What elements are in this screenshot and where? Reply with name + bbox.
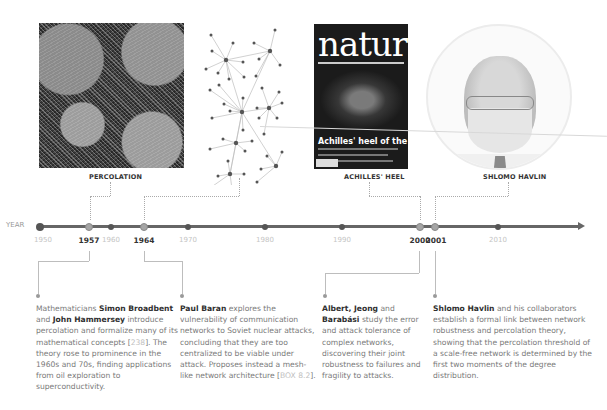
timeline-tick-1990: [339, 224, 345, 230]
year-label-2001: 2001: [426, 236, 447, 245]
reference: 238: [131, 338, 146, 347]
event-description-1964: Paul Baran explores the vulnerability of…: [180, 303, 316, 381]
timeline-marker-1957: [85, 223, 93, 231]
connector-nature: [369, 196, 420, 197]
nature-network-visual: [320, 70, 404, 130]
timeline-tick-1970: [185, 224, 191, 230]
event-connector-1957: [89, 251, 90, 261]
nature-cover-image: nature Achilles' heel of the internet: [314, 24, 408, 169]
percolation-image: [39, 23, 184, 168]
event-connector-1957: [38, 261, 89, 262]
person-name: Albert, Jeong: [322, 304, 378, 313]
shlomo-havlin-label: SHLOMO HAVLIN: [483, 173, 546, 181]
person-name: John Hammersey: [53, 315, 125, 324]
shlomo-havlin-portrait: [426, 24, 572, 170]
text: and: [36, 315, 53, 324]
text: and his collaborators establish a formal…: [433, 304, 592, 380]
person-name: Barabási: [322, 315, 359, 324]
year-label-1964: 1964: [134, 236, 155, 245]
connector-havlin: [435, 196, 508, 197]
year-label-1990: 1990: [333, 236, 351, 244]
timeline-tick-2010: [495, 224, 501, 230]
nature-masthead: nature: [318, 26, 408, 62]
reference: BOX 8.2: [280, 371, 310, 380]
event-connector-1964: [144, 251, 145, 261]
connector-percolation: [110, 182, 111, 196]
text: explores the vulnerability of communicat…: [180, 304, 314, 380]
connector-network: [144, 196, 239, 197]
connector-percolation: [90, 196, 110, 197]
event-connector-2000: [325, 273, 419, 274]
event-dot-1964: [180, 294, 184, 298]
text: Mathematicians: [36, 304, 99, 313]
event-dot-2001: [433, 294, 437, 298]
connector-havlin: [435, 196, 436, 220]
nature-subline: [318, 154, 388, 156]
event-connector-2000: [325, 273, 326, 294]
portrait-beard: [468, 108, 532, 153]
timeline-arrow-icon: [578, 222, 585, 230]
event-dot-1957: [36, 294, 40, 298]
year-label-1957: 1957: [79, 236, 100, 245]
nature-rule: [318, 62, 404, 64]
timeline-tick-1980: [262, 224, 268, 230]
event-description-2001: Shlomo Havlin and his collaborators esta…: [433, 303, 593, 381]
event-description-2000: Albert, Jeong and Barabási study the err…: [322, 303, 430, 381]
timeline-marker-2000: [416, 223, 424, 231]
event-dot-2000: [323, 294, 327, 298]
year-label-1960: 1960: [102, 236, 120, 244]
timeline-axis-label: YEAR: [6, 221, 24, 229]
network-diagram: [190, 10, 320, 185]
percolation-label: PERCOLATION: [89, 173, 142, 181]
nature-headline: Achilles' heel of the internet: [318, 137, 408, 146]
connector-network: [144, 196, 145, 220]
event-connector-2000: [419, 251, 420, 273]
text: and: [378, 304, 395, 313]
timeline-marker-2001: [431, 223, 439, 231]
text: study the error and attack tolerance of …: [322, 315, 421, 380]
connector-percolation: [90, 196, 91, 220]
person-name: Simon Broadbent: [99, 304, 173, 313]
portrait-glasses: [466, 96, 534, 110]
event-description-1957: Mathematicians Simon Broadbent and John …: [36, 303, 178, 393]
person-name: Paul Baran: [180, 304, 226, 313]
timeline-start-dot: [36, 223, 44, 231]
text: ].: [310, 371, 315, 380]
event-connector-1957: [38, 261, 39, 294]
event-connector-2001: [435, 251, 436, 294]
person-name: Shlomo Havlin: [433, 304, 495, 313]
connector-havlin: [508, 182, 509, 196]
connector-nature: [420, 196, 421, 220]
year-label-1970: 1970: [179, 236, 197, 244]
year-label-2010: 2010: [489, 236, 507, 244]
achilles-heel-label: ACHILLES' HEEL: [344, 173, 405, 181]
year-label-1950: 1950: [34, 236, 52, 244]
timeline-marker-1964: [140, 223, 148, 231]
year-label-1980: 1980: [256, 236, 274, 244]
connector-nature: [369, 182, 370, 196]
event-connector-1964: [144, 261, 182, 262]
event-connector-1964: [182, 261, 183, 294]
nature-subline: [318, 148, 398, 150]
timeline-tick-1960: [108, 224, 114, 230]
connector-network: [239, 178, 240, 196]
nature-sticker: [316, 159, 338, 167]
